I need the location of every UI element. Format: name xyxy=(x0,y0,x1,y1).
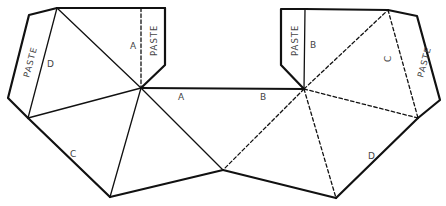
right-face-diagonal xyxy=(304,10,388,89)
fold-b-right xyxy=(304,9,305,89)
polyhedron-net-diagram: PASTE D A PASTE A B PASTE B C PASTE C D xyxy=(0,0,446,206)
edge-label-d-right: D xyxy=(368,151,375,161)
right-lower-fold xyxy=(304,89,336,198)
paste-label-top-right: PASTE xyxy=(290,25,300,56)
edge-label-d-left: D xyxy=(47,59,54,69)
left-face-diagonal xyxy=(57,8,141,88)
right-paste-tab-outline xyxy=(388,10,440,118)
edge-label-b-right-tab: B xyxy=(310,40,316,50)
edge-label-a-left-tab: A xyxy=(130,41,137,51)
right-mid-fold xyxy=(304,89,418,118)
bottom-right-cut xyxy=(223,170,336,198)
top-right-cut-edge xyxy=(305,9,388,10)
left-lower-cut-c xyxy=(28,118,110,197)
edge-label-c-left: C xyxy=(70,149,76,159)
edge-label-b-middle: B xyxy=(260,92,266,102)
fold-c-right-dashed xyxy=(388,10,418,118)
left-mid-fold xyxy=(28,88,141,118)
center-cut-edge-ab xyxy=(141,88,304,89)
bottom-left-cut xyxy=(110,170,223,197)
paste-label-left: PASTE xyxy=(21,46,39,79)
right-lower-cut-d xyxy=(336,118,418,198)
paste-label-top-left: PASTE xyxy=(149,25,159,56)
edge-label-a-middle: A xyxy=(178,92,185,102)
left-lower-fold xyxy=(110,88,141,197)
edge-label-c-right-tab: C xyxy=(383,56,393,62)
